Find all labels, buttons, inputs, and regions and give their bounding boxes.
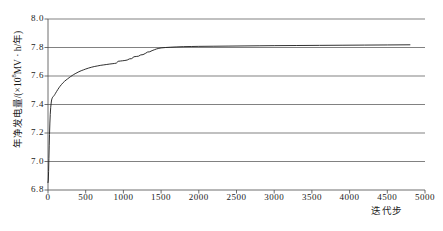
x-tick-label: 4000 — [340, 192, 360, 203]
gridlines — [48, 19, 425, 162]
x-tick-label: 1500 — [151, 192, 171, 203]
x-tick-label: 3500 — [302, 192, 322, 203]
y-axis-title: 年净发电量/(×108MV · h/年) — [13, 0, 24, 184]
y-tick-label: 6.8 — [0, 185, 44, 194]
x-tick-label: 3000 — [264, 192, 284, 203]
data-series-line — [48, 45, 410, 183]
x-tick-label: 0 — [46, 192, 51, 203]
x-tick-label: 2500 — [227, 192, 247, 203]
x-tick-label: 2000 — [189, 192, 209, 203]
chart-figure: 6.87.07.27.47.67.88.0 年净发电量/(×108MV · h/… — [0, 0, 443, 231]
plot-svg — [48, 19, 425, 190]
x-tick-label: 1000 — [113, 192, 133, 203]
x-tick-label: 500 — [78, 192, 93, 203]
x-axis-title: 迭代步 — [371, 206, 403, 217]
x-tick-label: 4500 — [377, 192, 397, 203]
plot-area — [48, 19, 425, 190]
x-axis-tick-labels: 0500100015002000250030003500400045005000 — [48, 192, 425, 206]
x-tick-label: 5000 — [415, 192, 435, 203]
